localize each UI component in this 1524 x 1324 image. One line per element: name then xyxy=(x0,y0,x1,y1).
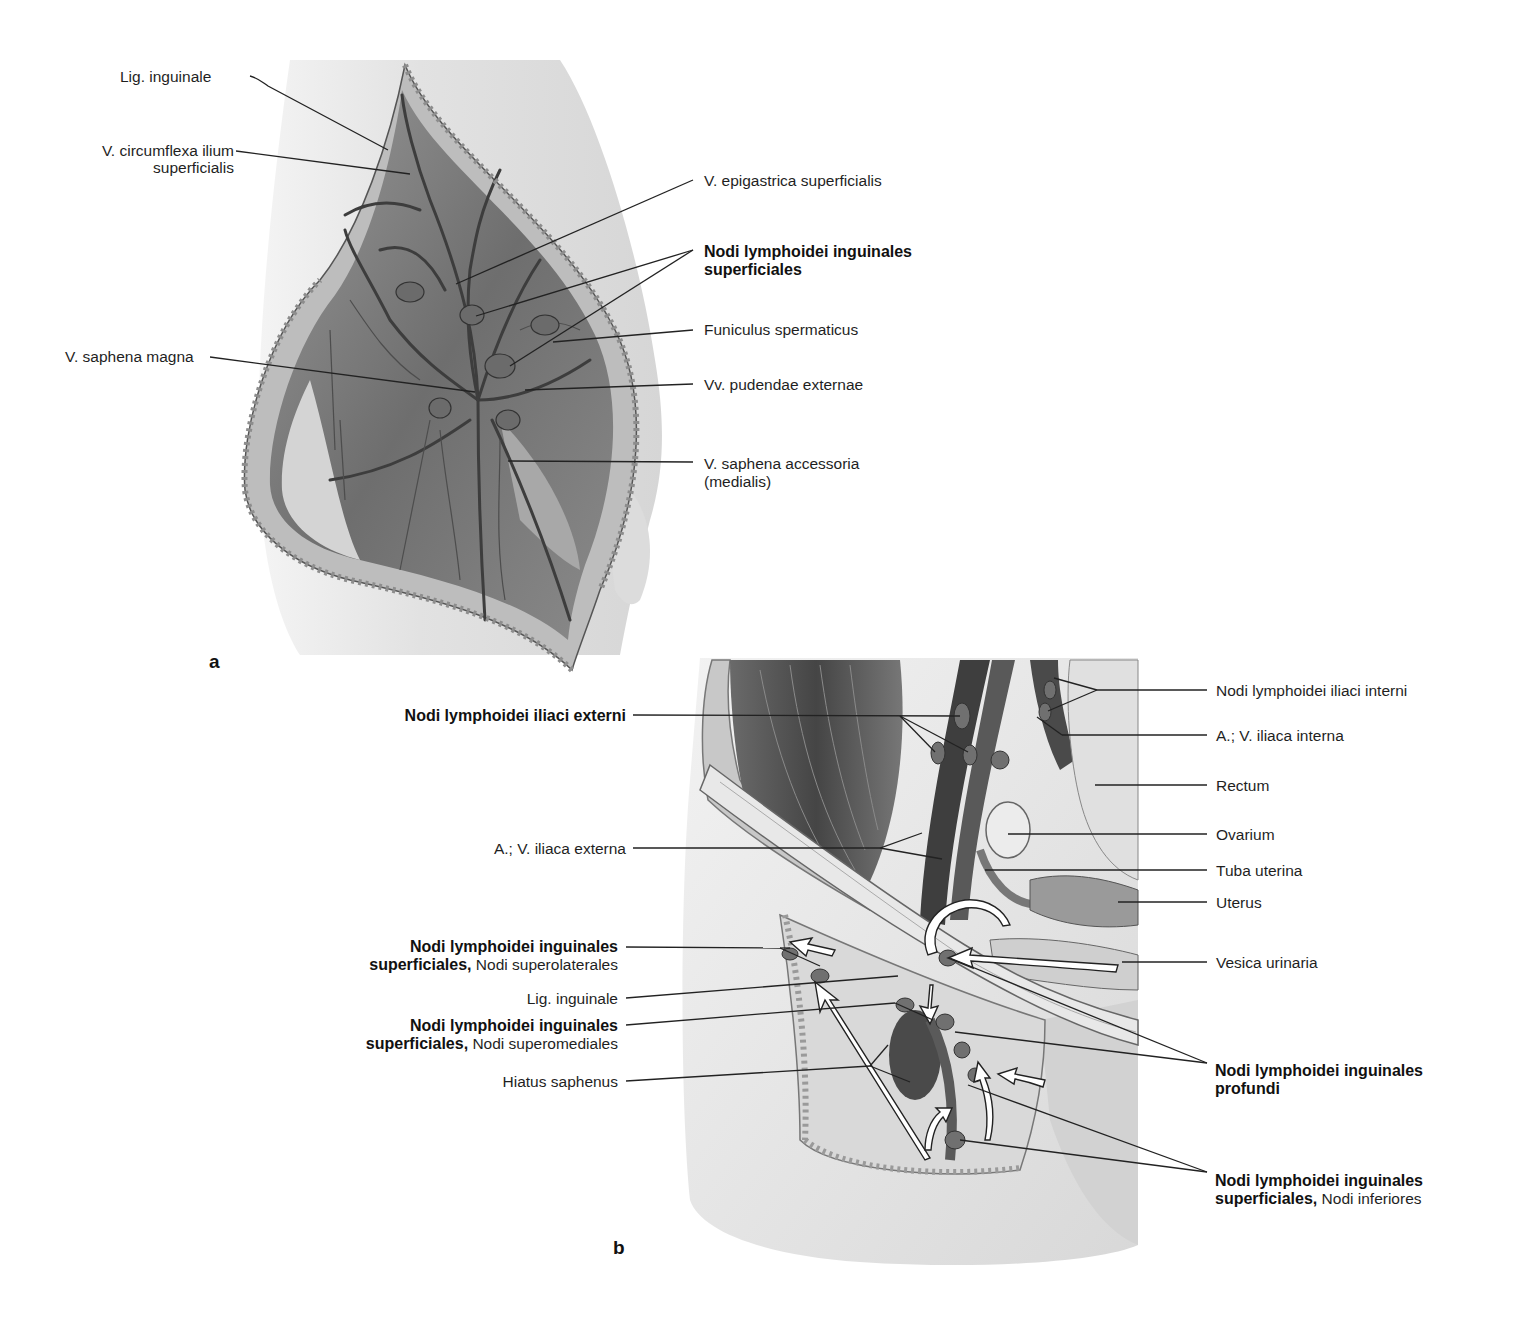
label-v-circumflexa-line2: superficialis xyxy=(86,158,234,177)
label-nodi-inferiores-line1: Nodi lymphoidei inguinales xyxy=(1215,1171,1423,1190)
label-nodi-superolaterales: Nodi superolaterales xyxy=(472,956,618,973)
label-tuba-uterina: Tuba uterina xyxy=(1216,861,1302,880)
label-nodi-profundi-line2: profundi xyxy=(1215,1079,1280,1098)
label-a-v-iliaca-interna: A.; V. iliaca interna xyxy=(1216,726,1344,745)
label-hiatus-saphenus: Hiatus saphenus xyxy=(300,1072,618,1091)
label-ovarium: Ovarium xyxy=(1216,825,1275,844)
label-nodi-superomediales: Nodi superomediales xyxy=(468,1035,618,1052)
label-lig-inguinale-b: Lig. inguinale xyxy=(300,989,618,1008)
label-nodi-superomediales-line2: superficiales, Nodi superomediales xyxy=(300,1034,618,1053)
label-nodi-iliaci-externi: Nodi lymphoidei iliaci externi xyxy=(300,706,626,725)
label-v-saphena-magna: V. saphena magna xyxy=(65,347,194,366)
label-superficiales-bold: superficiales, xyxy=(369,956,471,973)
label-nodi-profundi-line1: Nodi lymphoidei inguinales xyxy=(1215,1061,1423,1080)
label-v-saphena-accessoria-line1: V. saphena accessoria xyxy=(704,454,859,473)
label-lig-inguinale-a: Lig. inguinale xyxy=(120,67,211,86)
label-nodi-inguinales-superficiales-line1: Nodi lymphoidei inguinales xyxy=(704,242,912,261)
label-vv-pudendae-externae: Vv. pudendae externae xyxy=(704,375,863,394)
label-superficiales-bold: superficiales, xyxy=(366,1035,468,1052)
label-funiculus-spermaticus: Funiculus spermaticus xyxy=(704,320,858,339)
label-nodi-superolaterales-bold: Nodi lymphoidei inguinales xyxy=(410,938,618,955)
panel-a-illustration xyxy=(244,60,662,670)
label-rectum: Rectum xyxy=(1216,776,1269,795)
illustration-layer xyxy=(0,0,1524,1324)
label-nodi-inferiores: Nodi inferiores xyxy=(1317,1190,1421,1207)
panel-letter-a: a xyxy=(209,651,220,673)
anatomy-figure: Lig. inguinale V. circumflexa ilium supe… xyxy=(0,0,1524,1324)
label-vesica-urinaria: Vesica urinaria xyxy=(1216,953,1318,972)
label-superficiales-bold: superficiales, xyxy=(1215,1190,1317,1207)
label-nodi-superolaterales-line2: superficiales, Nodi superolaterales xyxy=(300,955,618,974)
label-nodi-superomediales-line1: Nodi lymphoidei inguinales xyxy=(300,1016,618,1035)
panel-letter-b: b xyxy=(613,1237,625,1259)
label-a-v-iliaca-externa: A.; V. iliaca externa xyxy=(300,839,626,858)
label-uterus: Uterus xyxy=(1216,893,1262,912)
label-nodi-inferiores-line2: superficiales, Nodi inferiores xyxy=(1215,1189,1422,1208)
label-nodi-superomediales-bold: Nodi lymphoidei inguinales xyxy=(410,1017,618,1034)
label-nodi-inferiores-bold: Nodi lymphoidei inguinales xyxy=(1215,1172,1423,1189)
label-nodi-inguinales-superficiales-line2: superficiales xyxy=(704,260,802,279)
label-nodi-superolaterales-line1: Nodi lymphoidei inguinales xyxy=(300,937,618,956)
panel-b-illustration xyxy=(683,658,1139,1265)
label-v-saphena-accessoria-line2: (medialis) xyxy=(704,472,771,491)
label-v-epigastrica-superficialis: V. epigastrica superficialis xyxy=(704,171,882,190)
label-nodi-iliaci-interni: Nodi lymphoidei iliaci interni xyxy=(1216,681,1407,700)
